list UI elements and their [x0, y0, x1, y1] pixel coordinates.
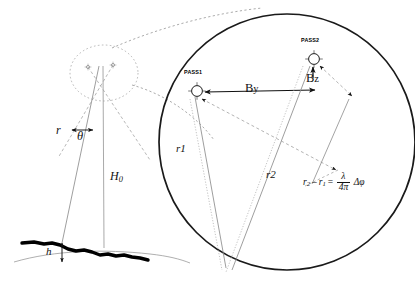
terrain-height-label: h	[46, 246, 52, 257]
baseline-by-subscript: y	[253, 83, 258, 94]
equation-minus: –	[312, 177, 317, 187]
interferometric-phase-equation: r2 – r1 = λ 4π Δφ	[303, 172, 365, 193]
baseline-bz-subscript: z	[314, 73, 319, 84]
range1-label: r1	[176, 143, 186, 154]
equation-denominator: 4π	[337, 183, 351, 193]
equation-numerator: λ	[339, 172, 347, 182]
equation-phase-term: Δφ	[354, 177, 365, 187]
equation-fraction: λ 4π	[337, 172, 351, 193]
equation-r1: r1	[319, 177, 326, 187]
wavefront-construction-lines	[202, 66, 352, 186]
imaging-geometry-lines	[58, 65, 150, 248]
platform-height-label: H0	[110, 170, 123, 184]
magnified-circle	[159, 14, 415, 270]
platform-height-symbol: H	[110, 169, 119, 183]
pass1-marker[interactable]	[188, 82, 206, 100]
baseline-bz-label: Bz	[306, 72, 319, 85]
source-region-circle	[70, 45, 138, 101]
pass2-label: PASS2	[301, 38, 319, 43]
range-vectors	[190, 66, 310, 272]
look-angle-label: θ	[77, 130, 83, 143]
slant-range-label: r	[56, 124, 61, 136]
range2-label: r2	[266, 169, 276, 180]
equation-equals: =	[328, 177, 333, 187]
equation-r2: r2	[303, 177, 310, 187]
pass2-marker[interactable]	[305, 50, 323, 68]
baseline-by-arrow[interactable]	[205, 90, 315, 92]
diagram-canvas	[0, 0, 415, 292]
terrain-profile	[14, 242, 190, 263]
insar-geometry-diagram: r θ H0 h PASS1 PASS2 By Bz r1 r2 r2 – r1…	[0, 0, 415, 292]
platform-height-subscript: 0	[119, 175, 123, 184]
baseline-by-label: By	[245, 82, 259, 95]
pass1-label: PASS1	[184, 70, 202, 75]
